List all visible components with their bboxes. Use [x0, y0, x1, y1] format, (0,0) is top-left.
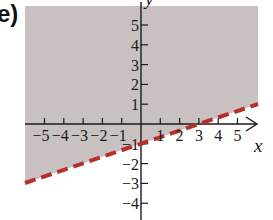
x-tick-label: 3	[195, 127, 203, 144]
y-tick-label: 2	[131, 76, 139, 93]
x-tick-label: −4	[52, 127, 69, 144]
x-tick-label: −2	[90, 127, 107, 144]
y-tick-label: 4	[131, 37, 139, 54]
y-tick-label: −2	[122, 156, 139, 173]
y-tick-label: −1	[122, 136, 139, 153]
x-tick-label: 5	[234, 127, 242, 144]
x-tick-label: 1	[156, 127, 164, 144]
panel-label: e)	[0, 0, 18, 27]
y-axis-label: y	[143, 0, 154, 9]
y-tick-label: −3	[122, 175, 139, 192]
x-axis-label: x	[253, 135, 263, 156]
y-tick-label: −4	[122, 195, 139, 212]
y-tick-label: 3	[131, 57, 139, 74]
x-tick-label: −3	[71, 127, 88, 144]
y-tick-label: 1	[131, 96, 139, 113]
x-tick-label: −5	[32, 127, 49, 144]
x-tick-label: 4	[214, 127, 222, 144]
x-tick-label: 2	[176, 127, 184, 144]
inequality-graph: −5−4−3−2−112345 54321−1−2−3−4 x y e)	[0, 0, 273, 220]
y-tick-label: 5	[131, 17, 139, 34]
